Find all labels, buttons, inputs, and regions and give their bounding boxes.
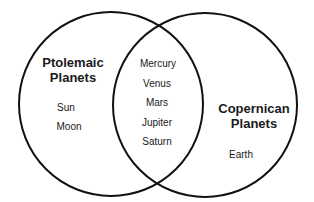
copernican-title: Copernican Planets xyxy=(218,101,290,131)
ptolemaic-title-line1: Ptolemaic xyxy=(42,55,103,70)
intersection-item-saturn: Saturn xyxy=(142,136,171,148)
copernican-title-line2: Planets xyxy=(218,116,290,131)
ptolemaic-item-sun: Sun xyxy=(57,102,75,114)
copernican-item-earth: Earth xyxy=(229,149,253,161)
intersection-item-venus: Venus xyxy=(143,78,171,90)
ptolemaic-title-line2: Planets xyxy=(42,70,103,85)
ptolemaic-item-moon: Moon xyxy=(56,121,81,133)
intersection-item-mars: Mars xyxy=(146,97,168,109)
ptolemaic-title: Ptolemaic Planets xyxy=(42,55,103,85)
ptolemaic-circle xyxy=(19,12,203,196)
intersection-item-jupiter: Jupiter xyxy=(142,117,172,129)
copernican-title-line1: Copernican xyxy=(218,101,290,116)
intersection-item-mercury: Mercury xyxy=(140,58,176,70)
